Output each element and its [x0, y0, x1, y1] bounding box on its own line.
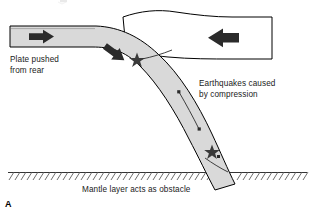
plate-push-label-line2: from rear: [10, 66, 44, 75]
cropped-text-artifact: [58, 0, 67, 4]
subduction-figure: Plate pushed from rear Earthquakes cause…: [0, 0, 315, 212]
mantle-label: Mantle layer acts as obstacle: [82, 185, 191, 194]
mantle-obstacle-layer: [8, 172, 308, 180]
diagram-canvas: Plate pushed from rear Earthquakes cause…: [0, 0, 315, 212]
figure-letter: A: [5, 199, 12, 209]
plate-push-label-line1: Plate pushed: [10, 55, 59, 64]
earthquakes-label-line1: Earthquakes caused: [199, 79, 276, 88]
mantle-hatching: [9, 172, 308, 180]
earthquakes-label-line2: by compression: [199, 90, 258, 99]
